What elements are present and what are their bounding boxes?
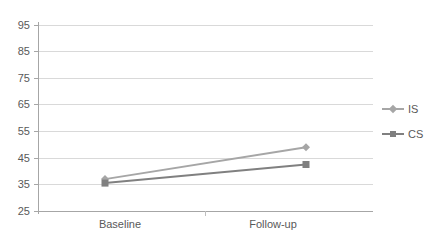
legend-swatch-cs (382, 128, 404, 140)
legend-label-is: IS (408, 103, 418, 115)
data-point-cs-0[interactable] (102, 180, 109, 187)
data-point-cs-1[interactable] (303, 161, 310, 168)
square-marker-icon (390, 131, 396, 137)
data-point-is-1[interactable] (302, 143, 310, 151)
series-layer (0, 0, 440, 243)
diamond-marker-icon (389, 105, 397, 113)
legend: IS CS (382, 103, 423, 140)
legend-swatch-is (382, 103, 404, 115)
line-chart: 95 85 75 65 55 45 35 25 Baseline Follow-… (0, 0, 440, 243)
legend-label-cs: CS (408, 128, 423, 140)
legend-item-is[interactable]: IS (382, 103, 423, 115)
legend-item-cs[interactable]: CS (382, 128, 423, 140)
